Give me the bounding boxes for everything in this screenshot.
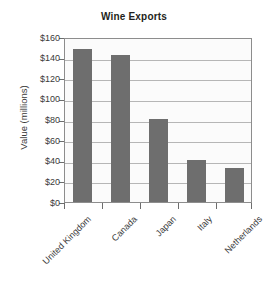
bar-chart: Wine Exports Value (millions) $160 $140 … — [0, 0, 268, 291]
x-tick-mark — [178, 203, 179, 209]
bar-united-kingdom — [73, 49, 92, 202]
bar-netherlands — [225, 168, 244, 202]
bar-japan — [149, 119, 168, 202]
y-tick-label: $80 — [16, 116, 60, 125]
x-axis-label-japan: Japan — [104, 214, 178, 288]
y-tick-label: $160 — [16, 34, 60, 43]
bar-canada — [111, 55, 130, 202]
y-tick-label: $120 — [16, 75, 60, 84]
bar-italy — [187, 160, 206, 202]
x-tick-mark — [140, 203, 141, 209]
x-tick-mark — [251, 203, 252, 209]
y-tick-label: $100 — [16, 95, 60, 104]
x-tick-mark — [216, 203, 217, 209]
y-tick-label: $40 — [16, 157, 60, 166]
x-tick-mark — [102, 203, 103, 209]
y-tick-label: $0 — [16, 199, 60, 208]
y-tick-label: $60 — [16, 137, 60, 146]
bars-layer — [65, 39, 251, 202]
x-tick-mark — [64, 203, 65, 209]
plot-area — [64, 38, 252, 203]
y-tick-label: $140 — [16, 54, 60, 63]
y-tick-label: $20 — [16, 178, 60, 187]
